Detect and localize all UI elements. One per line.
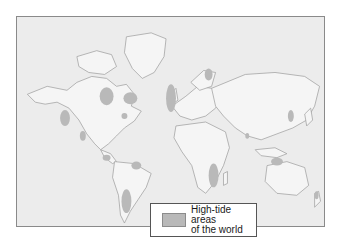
africa bbox=[174, 122, 229, 193]
greenland bbox=[124, 33, 166, 79]
high-tide-swatch bbox=[162, 213, 186, 227]
arctic-islands bbox=[77, 51, 117, 75]
legend-label: High-tide areas of the world bbox=[191, 205, 256, 235]
australia bbox=[265, 162, 309, 196]
legend-label-line2: of the world bbox=[191, 225, 256, 235]
map-legend: High-tide areas of the world bbox=[150, 203, 257, 237]
asia bbox=[212, 72, 320, 139]
indonesia bbox=[255, 148, 287, 158]
madagascar bbox=[223, 172, 227, 186]
south-america bbox=[113, 162, 152, 223]
legend-label-line1: High-tide areas bbox=[191, 205, 256, 225]
world-map-graphic bbox=[17, 17, 324, 226]
world-map bbox=[16, 16, 325, 227]
